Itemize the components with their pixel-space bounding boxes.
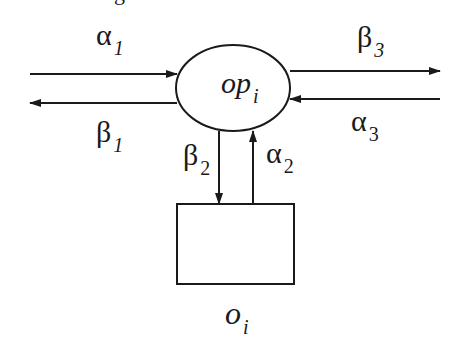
object-node-box [177, 204, 294, 284]
operator-node-subscript: i [253, 85, 259, 107]
alpha1-subscript: 1 [114, 37, 124, 59]
object-node-name: o [225, 295, 241, 331]
object-node-subscript: i [243, 316, 249, 338]
beta3-symbol: β [357, 20, 372, 53]
operator-node-label: opi [221, 68, 259, 106]
beta1-subscript: 1 [113, 134, 123, 156]
alpha2-subscript: 2 [284, 155, 294, 177]
alpha1-symbol: α [96, 18, 112, 51]
beta2-symbol: β [183, 138, 198, 171]
alpha3-symbol: α [351, 104, 367, 137]
beta3-label: β3 [357, 22, 384, 60]
operator-node-name: op [221, 66, 251, 99]
beta1-symbol: β [96, 115, 111, 148]
alpha2-symbol: α [266, 136, 282, 169]
alpha1-label: α1 [96, 20, 124, 58]
object-node-label: oi [225, 297, 249, 337]
alpha2-label: α2 [266, 138, 294, 176]
top-partial-text: g [114, 0, 125, 4]
beta2-subscript: 2 [200, 157, 210, 179]
beta3-subscript: 3 [374, 39, 384, 61]
alpha3-subscript: 3 [369, 123, 379, 145]
alpha3-label: α3 [351, 106, 379, 144]
beta2-label: β2 [183, 140, 210, 178]
beta1-label: β1 [96, 117, 123, 155]
